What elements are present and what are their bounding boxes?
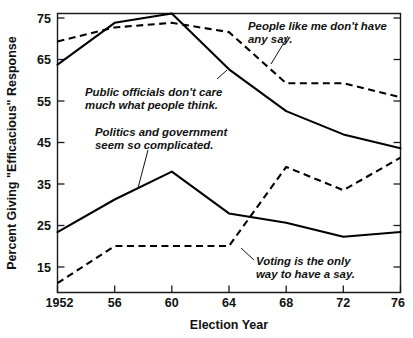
annotation-public-officials: Public officials don't care much what pe… (85, 86, 223, 111)
y-axis-tick-labels: 75 65 55 45 35 25 15 (37, 12, 51, 275)
leader-politics-complicated (138, 150, 148, 188)
annotation-line: much what people think. (85, 99, 218, 111)
y-axis-ticks-right (394, 18, 401, 267)
x-tick-label: 1952 (46, 296, 74, 310)
leader-public-officials (217, 70, 227, 79)
y-tick-label: 75 (37, 12, 51, 26)
y-tick-label: 15 (37, 261, 51, 275)
annotation-people-like-me: People like me don't have any say. (248, 20, 387, 45)
x-axis-title: Election Year (190, 318, 268, 332)
x-tick-label: 72 (336, 296, 350, 310)
x-axis-tick-labels: 1952 56 60 64 68 72 76 (46, 296, 405, 310)
y-tick-label: 25 (37, 219, 51, 233)
x-tick-label: 60 (165, 296, 179, 310)
y-tick-label: 35 (37, 178, 51, 192)
x-tick-label: 68 (279, 296, 293, 310)
annotation-line: way to have a say. (256, 268, 355, 280)
leader-voting-only-way (241, 248, 254, 260)
annotation-line: Voting is the only (256, 255, 351, 267)
efficacy-trend-figure: 75 65 55 45 35 25 15 1952 56 60 64 68 72… (0, 0, 413, 338)
x-tick-label: 64 (222, 296, 236, 310)
annotation-line: any say. (248, 33, 293, 45)
y-axis-title: Percent Giving "Efficacious" Response (5, 36, 19, 269)
line-chart: 75 65 55 45 35 25 15 1952 56 60 64 68 72… (0, 0, 413, 338)
annotation-line: People like me don't have (248, 20, 387, 32)
annotation-line: Politics and government (95, 126, 228, 138)
annotation-line: Public officials don't care (85, 86, 223, 98)
series-politics-complicated (58, 172, 401, 237)
y-tick-label: 65 (37, 53, 51, 67)
y-tick-label: 55 (37, 95, 51, 109)
x-axis-ticks (58, 286, 401, 293)
x-tick-label: 76 (391, 296, 405, 310)
annotation-line: seem so complicated. (95, 139, 213, 151)
annotation-politics-complicated: Politics and government seem so complica… (95, 126, 228, 151)
y-tick-label: 45 (37, 136, 51, 150)
annotation-voting-only-way: Voting is the only way to have a say. (256, 255, 355, 280)
x-tick-label: 56 (108, 296, 122, 310)
